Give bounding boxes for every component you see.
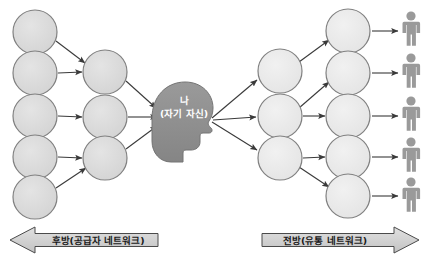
edge-self-dm1 [212,80,257,118]
edge-self-dm3 [212,122,257,150]
node-distributor-outer-4[interactable] [326,135,370,179]
edge-uo5-um3 [56,168,86,188]
edge-dm1-do1 [299,40,329,62]
banner-right-label: 전방(유통 네트워크) [283,235,367,246]
node-distributor-mid-1[interactable] [258,49,302,93]
self-node-label-primary: 나 [180,95,189,106]
downstream-outer-nodes [326,9,370,218]
node-distributor-outer-5[interactable] [326,174,370,218]
node-supplier-mid-3[interactable] [83,136,127,180]
banner-left[interactable]: 후방(공급자 네트워크) [10,227,158,253]
person-icon-3[interactable] [403,96,421,130]
self-node[interactable]: 나 (자기 자신) [152,82,213,162]
node-supplier-outer-5[interactable] [13,175,57,219]
person-icon-5[interactable] [403,177,421,211]
person-icon-1[interactable] [403,11,421,45]
node-supplier-outer-2[interactable] [13,51,57,95]
person-icon-4[interactable] [403,137,421,171]
node-distributor-outer-2[interactable] [326,51,370,95]
banner-left-label: 후방(공급자 네트워크) [52,235,145,246]
node-distributor-outer-3[interactable] [326,94,370,138]
downstream-mid-nodes [258,49,302,180]
edge-uo3-um2 [58,116,82,117]
node-supplier-mid-2[interactable] [83,95,127,139]
edge-uo4-um3 [58,157,82,158]
edge-dm3-do4 [303,157,325,158]
edge-dm2-do2 [299,82,329,108]
node-supplier-outer-4[interactable] [13,135,57,179]
node-supplier-outer-1[interactable] [13,10,57,54]
edge-uo2-um1 [58,72,82,73]
edge-self-dm2 [213,117,256,120]
network-diagram: 나 (자기 자신) 후방(공급자 네트워크) 전방(유통 네트워크) [0,0,429,271]
self-node-label-secondary: (자기 자신) [160,108,208,119]
node-distributor-mid-3[interactable] [258,136,302,180]
head-silhouette [152,82,213,162]
node-supplier-mid-1[interactable] [83,50,127,94]
banner-right[interactable]: 전방(유통 네트워크) [262,227,419,253]
diagram-canvas: 나 (자기 자신) 후방(공급자 네트워크) 전방(유통 네트워크) [0,0,429,271]
node-distributor-mid-2[interactable] [258,94,302,138]
edge-dm3-do5 [299,167,329,187]
person-icon-2[interactable] [403,53,421,87]
customer-people [403,11,421,211]
upstream-mid-nodes [83,50,127,180]
edge-um1-self [126,81,156,108]
upstream-outer-nodes [13,10,57,219]
node-supplier-outer-3[interactable] [13,94,57,138]
node-distributor-outer-1[interactable] [326,9,370,53]
edge-uo1-um1 [56,41,85,63]
